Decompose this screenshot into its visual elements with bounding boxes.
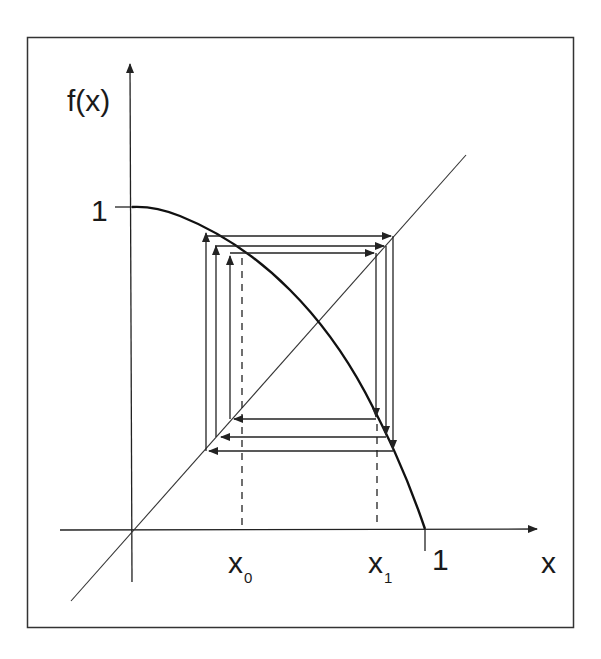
y-axis: [130, 64, 132, 582]
x-axis-label: x: [541, 548, 556, 578]
x-tick-label-one: 1: [432, 545, 449, 575]
x1-label-subscript: 1: [384, 569, 392, 586]
cobweb-loop-1: [230, 253, 376, 419]
cobweb-loop-3: [206, 233, 393, 451]
x0-label: x0: [228, 548, 252, 578]
x1-label-main: x: [368, 546, 383, 579]
x1-label: x1: [368, 548, 392, 578]
function-curve: [132, 207, 425, 529]
y-tick-label-one: 1: [91, 196, 108, 226]
figure-frame: [28, 38, 574, 628]
x0-label-subscript: 0: [244, 569, 252, 586]
x0-label-main: x: [228, 546, 243, 579]
y-axis-label: f(x): [67, 86, 110, 116]
